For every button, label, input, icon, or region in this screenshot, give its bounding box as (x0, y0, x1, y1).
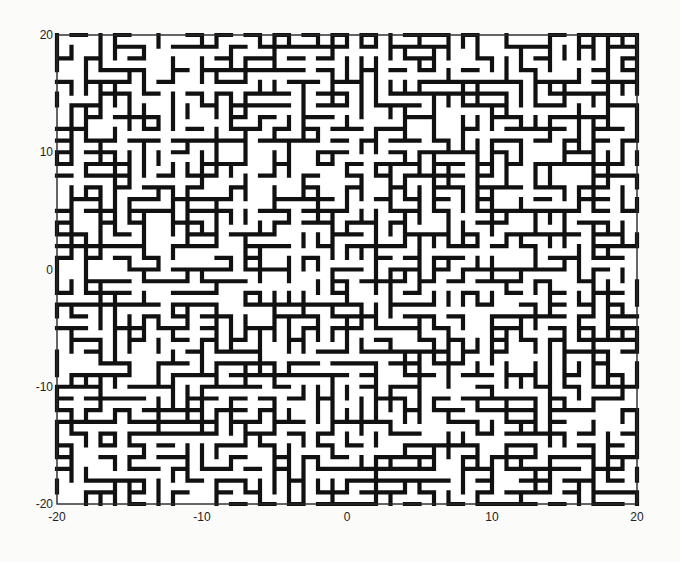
y-tick-label: 20 (40, 28, 54, 42)
lattice-plot-figure: -20-1001020 -20-1001020 (0, 0, 680, 562)
y-tick-label: -10 (36, 380, 54, 394)
y-axis-ticks: -20-1001020 (36, 28, 54, 511)
x-tick-label: -20 (48, 510, 66, 524)
bond-path (57, 35, 637, 504)
x-tick-label: -10 (193, 510, 211, 524)
y-tick-label: 10 (40, 145, 54, 159)
x-tick-label: 10 (485, 510, 499, 524)
x-axis-ticks: -20-1001020 (48, 510, 644, 524)
x-tick-label: 20 (630, 510, 644, 524)
y-tick-label: 0 (46, 263, 53, 277)
bond-segments (57, 35, 637, 504)
y-tick-label: -20 (36, 497, 54, 511)
x-tick-label: 0 (344, 510, 351, 524)
